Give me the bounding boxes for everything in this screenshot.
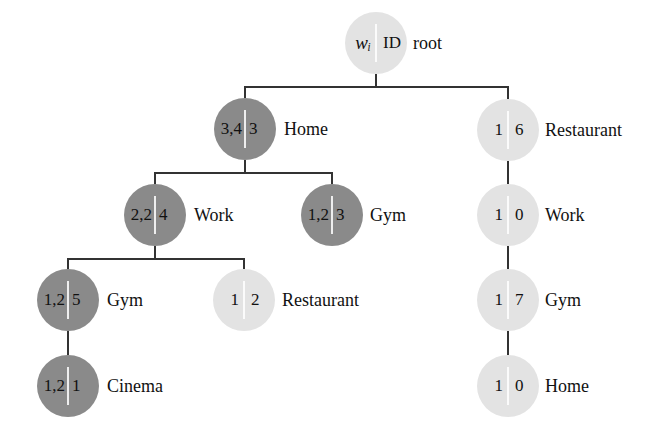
node-id: ID [383, 12, 401, 74]
edge-root-home [244, 86, 246, 98]
node-root: wᵢ ID [345, 12, 407, 74]
node-weight: 1,2 [44, 355, 65, 417]
node-weight: 1 [495, 184, 504, 246]
node-label-restaurant-middle: Restaurant [282, 289, 359, 311]
node-gym-right: 1 7 [477, 269, 539, 331]
edge-work-gym [67, 258, 69, 269]
node-label-restaurant-right: Restaurant [545, 119, 622, 141]
node-divider [331, 196, 333, 234]
node-weight: 1 [495, 355, 504, 417]
edge-workr-gymr [507, 246, 509, 269]
node-weight: wᵢ [355, 12, 371, 74]
node-divider [67, 281, 69, 319]
node-divider [243, 281, 245, 319]
edge-root-restaurant [507, 86, 509, 99]
edge-home-work [154, 172, 156, 184]
node-id: 3 [249, 98, 258, 160]
tree-diagram: wᵢ ID root 3,4 3 Home 1 6 Restaurant 2,2… [0, 0, 650, 439]
node-weight: 1 [231, 269, 240, 331]
node-label-work-right: Work [545, 204, 585, 226]
edge-work-bar [67, 258, 245, 260]
edge-root-stem [375, 74, 377, 86]
node-id: 3 [336, 184, 345, 246]
node-weight: 1,2 [308, 184, 329, 246]
node-id: 1 [72, 355, 81, 417]
edge-work-stem [154, 246, 156, 258]
node-label-gym-middle: Gym [370, 204, 406, 226]
edge-home-stem [244, 160, 246, 172]
edge-restaurant-work [507, 161, 509, 184]
node-divider [507, 281, 509, 319]
node-id: 4 [159, 184, 168, 246]
node-divider [154, 196, 156, 234]
node-label-gym-right: Gym [545, 289, 581, 311]
node-label-cinema: Cinema [107, 375, 163, 397]
node-divider [67, 367, 69, 405]
node-id: 0 [515, 355, 524, 417]
node-divider [507, 111, 509, 149]
node-restaurant-middle: 1 2 [213, 269, 275, 331]
edge-gymr-homer [507, 331, 509, 355]
node-divider [507, 196, 509, 234]
node-label-work-left: Work [194, 204, 234, 226]
node-label-home-right: Home [545, 375, 589, 397]
edge-home-bar [154, 172, 333, 174]
node-label-home: Home [284, 118, 328, 140]
node-divider [244, 110, 246, 148]
edge-home-gym [331, 172, 333, 184]
edge-gym-cinema [67, 331, 69, 355]
node-work-right: 1 0 [477, 184, 539, 246]
node-gym-middle: 1,2 3 [301, 184, 363, 246]
node-id: 7 [515, 269, 524, 331]
node-restaurant-right: 1 6 [477, 99, 539, 161]
edge-work-restaurant [243, 258, 245, 269]
node-work-left: 2,2 4 [124, 184, 186, 246]
node-label-root: root [413, 32, 442, 54]
node-weight: 1 [495, 99, 504, 161]
node-weight: 3,4 [221, 98, 242, 160]
node-home-right: 1 0 [477, 355, 539, 417]
edge-root-bar [244, 86, 509, 88]
node-label-gym-left: Gym [107, 289, 143, 311]
node-id: 2 [251, 269, 260, 331]
node-id: 6 [515, 99, 524, 161]
node-weight: 1 [495, 269, 504, 331]
node-id: 5 [72, 269, 81, 331]
node-divider [375, 24, 377, 62]
node-weight: 1,2 [44, 269, 65, 331]
node-home: 3,4 3 [214, 98, 276, 160]
node-divider [507, 367, 509, 405]
node-weight: 2,2 [131, 184, 152, 246]
node-gym-left: 1,2 5 [37, 269, 99, 331]
node-id: 0 [515, 184, 524, 246]
node-cinema: 1,2 1 [37, 355, 99, 417]
